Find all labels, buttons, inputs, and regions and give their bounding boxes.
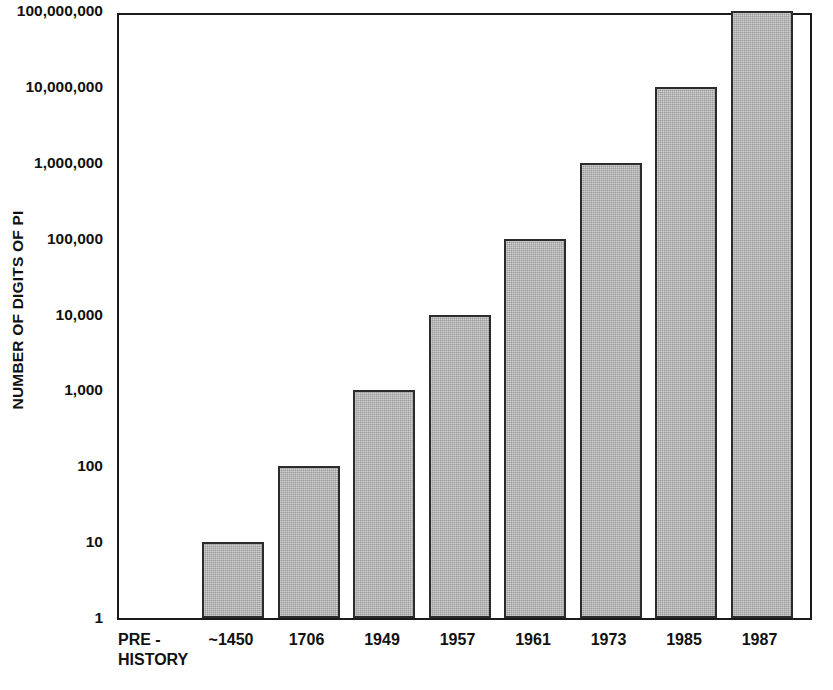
bar-1985 <box>655 87 717 618</box>
y-tick-label: 100,000 <box>47 230 103 248</box>
bar-1973 <box>580 163 642 618</box>
bar-1987 <box>731 11 793 618</box>
y-tick-label: 1 <box>94 609 103 627</box>
y-tick-label: 10,000 <box>56 306 103 324</box>
bar-1450 <box>202 542 264 618</box>
bar-1961 <box>504 239 566 618</box>
y-tick-label: 1,000 <box>64 381 103 399</box>
y-tick-label: 100,000,000 <box>17 2 103 20</box>
y-tick-label: 1,000,000 <box>34 154 103 172</box>
y-axis-title-text: NUMBER OF DIGITS OF PI <box>8 210 26 409</box>
y-tick-label: 10,000,000 <box>25 78 103 96</box>
x-tick-label: 1987 <box>710 630 810 650</box>
bar-1949 <box>353 390 415 618</box>
bar-chart: NUMBER OF DIGITS OF PI 100,000,000 10,00… <box>0 0 833 690</box>
bar-1706 <box>278 466 340 618</box>
bar-1957 <box>429 315 491 619</box>
y-tick-label: 10 <box>86 533 103 551</box>
y-tick-label: 100 <box>77 457 103 475</box>
plot-area <box>117 13 812 620</box>
